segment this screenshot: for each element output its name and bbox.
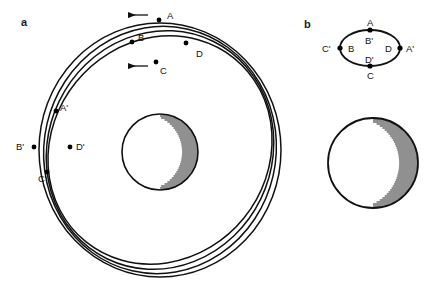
point-label-a-C: C	[160, 66, 167, 76]
panel-b-letter: b	[304, 19, 311, 30]
point-marker-D	[184, 41, 189, 46]
panel-a-letter: a	[21, 17, 27, 28]
point-label-a-B: B	[138, 33, 144, 43]
point-marker-B-prime	[32, 145, 37, 150]
point-marker-B	[130, 40, 135, 45]
point-label-b-A: A	[367, 18, 373, 28]
point-label-a-A-prime: A'	[60, 103, 68, 113]
point-label-b-B: B	[348, 44, 354, 54]
point-label-a-A: A	[167, 11, 173, 21]
point-marker-C	[154, 60, 159, 65]
point-marker-A	[157, 18, 162, 23]
panel-a-diagram	[2, 0, 318, 284]
point-marker-A-prime	[54, 109, 59, 114]
point-label-a-D-prime: D'	[76, 142, 85, 152]
point-marker-C-prime	[337, 45, 342, 50]
point-label-a-B-prime: B'	[16, 142, 24, 152]
panel-b-central-body	[328, 118, 418, 208]
point-label-b-D-prime: D'	[365, 55, 374, 65]
point-marker-D-prime	[68, 145, 73, 150]
point-label-a-D: D	[196, 49, 203, 59]
point-label-a-C-prime: C'	[38, 174, 47, 184]
point-marker-A-prime	[397, 45, 402, 50]
panel-a-central-body	[122, 114, 198, 190]
point-label-b-A-prime: A'	[406, 44, 414, 54]
figure-canvas: a b ABDCA'B'D'C'AB'C'BDA'D'C	[0, 0, 438, 284]
point-label-b-C: C	[367, 71, 374, 81]
point-label-b-C-prime: C'	[322, 44, 331, 54]
point-label-b-B-prime: B'	[365, 36, 373, 46]
point-marker-A	[367, 27, 372, 32]
point-label-b-D: D	[385, 44, 392, 54]
